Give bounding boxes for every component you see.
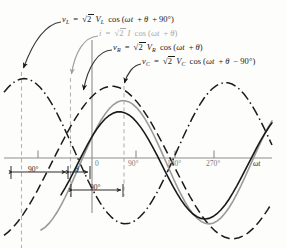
dimension-theta <box>70 166 90 179</box>
dimension-label-left-90: 90° <box>28 165 39 174</box>
equation-vC: vC = √2 VC cos (ωt + θ − 90°) <box>142 56 255 67</box>
x-tick-label-90: 90° <box>128 159 139 168</box>
equation-current: i = √2 I cos (ωt + θ) <box>99 28 177 38</box>
dimension-label-theta: θ <box>75 165 79 174</box>
x-tick-label-180: 180° <box>167 159 181 168</box>
x-tick-label-0: 0 <box>95 159 99 168</box>
leader-arrow-current <box>72 36 99 74</box>
dimension-label-right-90: 90° <box>90 183 101 192</box>
x-tick-label-270: 270° <box>206 159 220 168</box>
leader-arrow-vR <box>84 50 113 90</box>
leader-arrow-vC <box>125 64 142 83</box>
x-axis <box>4 151 272 159</box>
dimension-left-90 <box>11 166 68 179</box>
equation-vL: vL = √2 VL cos (ωt + θ + 90°) <box>62 14 174 25</box>
leader-arrow-vL <box>24 22 62 68</box>
equation-vR: vR = √2 VR cos (ωt + θ) <box>113 42 203 53</box>
waveform-figure: vL = √2 VL cos (ωt + θ + 90°) i = √2 I c… <box>0 0 286 248</box>
x-axis-label: ωt <box>253 159 260 168</box>
